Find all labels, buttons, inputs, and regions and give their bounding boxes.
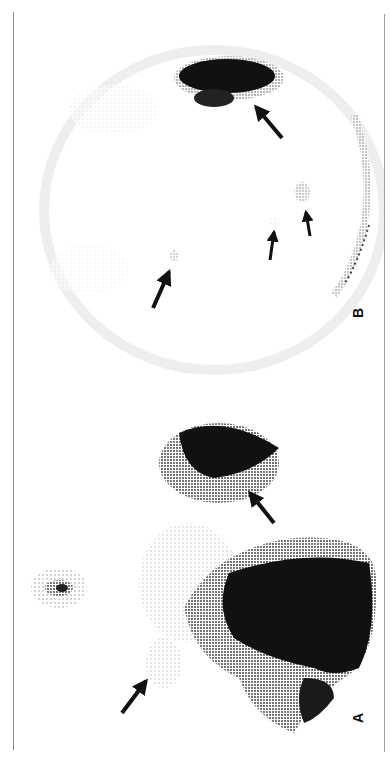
panel-a-image: [14, 378, 384, 748]
arrow-icon: [270, 232, 274, 260]
arrow-icon: [122, 681, 146, 713]
panel-label-b: B: [351, 308, 365, 318]
arrow-icon: [250, 493, 274, 523]
arrow-icon: [306, 212, 310, 236]
panel-b: B: [14, 10, 384, 380]
dense-uptake-a-upper: [159, 423, 279, 503]
right-border-rule: [384, 14, 385, 752]
dense-uptake-b: [174, 56, 284, 107]
arrow-icon: [256, 107, 282, 138]
panel-b-image: [14, 10, 384, 380]
arrow-icon: [153, 272, 169, 308]
panel-a: A: [14, 378, 384, 748]
left-focus-a: [31, 568, 87, 608]
panel-label-a: A: [351, 713, 365, 723]
figure: B: [0, 0, 391, 758]
